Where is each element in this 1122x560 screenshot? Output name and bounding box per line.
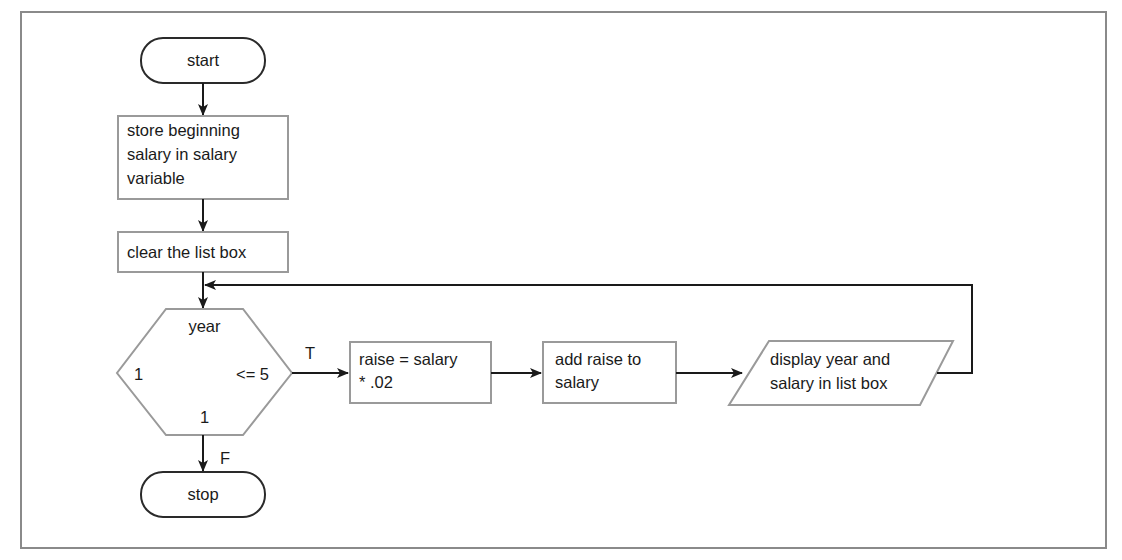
- flowchart-canvas: [0, 0, 1122, 560]
- store-label-line3: variable: [127, 168, 185, 189]
- loop-variable-label: year: [166, 316, 243, 337]
- false-branch-label: F: [220, 448, 230, 469]
- add-label-line2: salary: [555, 372, 599, 393]
- display-label-line1: display year and: [770, 349, 890, 370]
- add-label-line1: add raise to: [555, 349, 641, 370]
- raise-label-line1: raise = salary: [359, 349, 458, 370]
- display-label-line2: salary in list box: [770, 373, 887, 394]
- loop-condition: <= 5: [236, 364, 269, 385]
- raise-label-line2: * .02: [359, 372, 393, 393]
- loop-start-value: 1: [134, 364, 143, 385]
- store-label-line1: store beginning: [127, 120, 240, 141]
- clear-label: clear the list box: [127, 242, 246, 263]
- loop-step-value: 1: [166, 407, 243, 428]
- diagram-frame: [21, 12, 1106, 548]
- stop-label: stop: [141, 484, 265, 505]
- true-branch-label: T: [305, 343, 315, 364]
- start-label: start: [141, 50, 265, 71]
- store-label-line2: salary in salary: [127, 144, 237, 165]
